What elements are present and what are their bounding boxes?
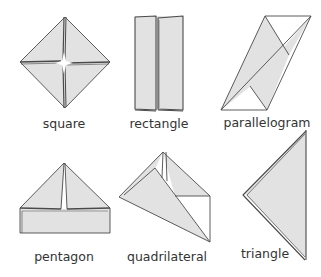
label-square: square: [43, 118, 86, 131]
parallelogram-shape: [221, 16, 311, 110]
figure-canvas: [0, 0, 321, 277]
label-triangle: triangle: [241, 248, 289, 261]
label-quadrilateral: quadrilateral: [127, 251, 207, 264]
label-pentagon: pentagon: [34, 251, 94, 264]
square-shape: [20, 17, 110, 108]
label-parallelogram: parallelogram: [223, 117, 310, 130]
triangle-shape: [243, 130, 306, 260]
quadrilateral-shape: [119, 152, 210, 242]
label-rectangle: rectangle: [129, 118, 188, 131]
pentagon-shape: [20, 163, 110, 233]
rectangle-shape: [135, 16, 183, 111]
